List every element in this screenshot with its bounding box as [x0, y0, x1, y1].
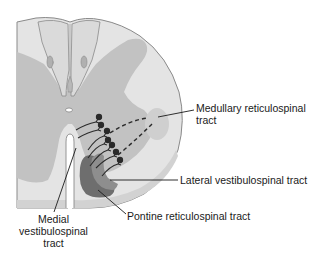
label-medullary-reticulospinal-tract: Medullary reticulospinal tract — [196, 102, 306, 126]
label-line: Medial — [16, 213, 91, 225]
label-line: vestibulospinal — [16, 225, 91, 237]
medullary-reticulospinal-area — [145, 108, 169, 140]
label-medial-vestibulospinal-tract: Medial vestibulospinal tract — [16, 213, 91, 249]
spinal-cord-cross-section — [17, 18, 182, 209]
label-line: tract — [16, 237, 91, 249]
label-pontine-reticulospinal-tract: Pontine reticulospinal tract — [127, 210, 250, 222]
label-lateral-vestibulospinal-tract: Lateral vestibulospinal tract — [180, 174, 307, 186]
label-line: tract — [196, 114, 306, 126]
central-canal — [66, 108, 73, 112]
anterior-median-fissure — [66, 134, 74, 208]
label-line: Medullary reticulospinal — [196, 102, 306, 114]
